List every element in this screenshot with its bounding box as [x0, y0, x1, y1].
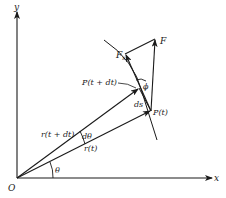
force-component-link: [125, 39, 155, 54]
phi-label: ϕ: [143, 82, 149, 91]
trajectory-curve: [104, 40, 157, 140]
r-t-label: r(t): [84, 144, 97, 153]
ds-label: ds: [134, 100, 143, 109]
force-s-label: Fs: [115, 50, 125, 61]
force-label: F: [159, 36, 167, 46]
theta-label: θ: [55, 166, 60, 175]
r-t-dt-label: r(t + dt): [41, 130, 74, 139]
vector-force: [151, 40, 155, 111]
vector-r-t-dt: [17, 89, 138, 178]
d-theta-label: dθ: [82, 132, 92, 141]
theta-arc: [50, 162, 53, 178]
p-t-dt-label: P(t + dt): [81, 78, 117, 87]
polar-force-diagram: y x O θ dθ r(t) r(t + dt) P(t) P(t + dt)…: [0, 0, 226, 198]
x-axis-label: x: [214, 173, 219, 183]
origin-label: O: [8, 183, 16, 193]
p-t-label: P(t): [152, 108, 168, 117]
p-t-dt-leader: [118, 83, 136, 88]
y-axis-label: y: [13, 2, 20, 12]
